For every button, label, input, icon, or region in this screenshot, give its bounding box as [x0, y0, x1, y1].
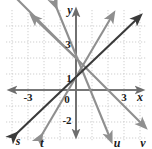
x-tick-label-neg3: -3 — [23, 91, 33, 103]
coordinate-graph: -3 3 3 1 -2 0 x y s t u v — [0, 0, 152, 149]
y-tick-label-1: 1 — [66, 72, 72, 84]
y-axis-label: y — [65, 3, 73, 17]
y-tick-label-neg2: -2 — [62, 114, 72, 126]
x-tick-label-3: 3 — [121, 91, 127, 103]
x-axis-label: x — [136, 90, 143, 104]
line-label-s: s — [15, 134, 21, 148]
origin-label: 0 — [64, 93, 70, 105]
line-label-v: v — [140, 136, 146, 149]
line-label-u: u — [114, 136, 121, 149]
y-tick-label-3: 3 — [65, 38, 71, 50]
graph-canvas: -3 3 3 1 -2 0 x y s t u v — [0, 0, 152, 149]
